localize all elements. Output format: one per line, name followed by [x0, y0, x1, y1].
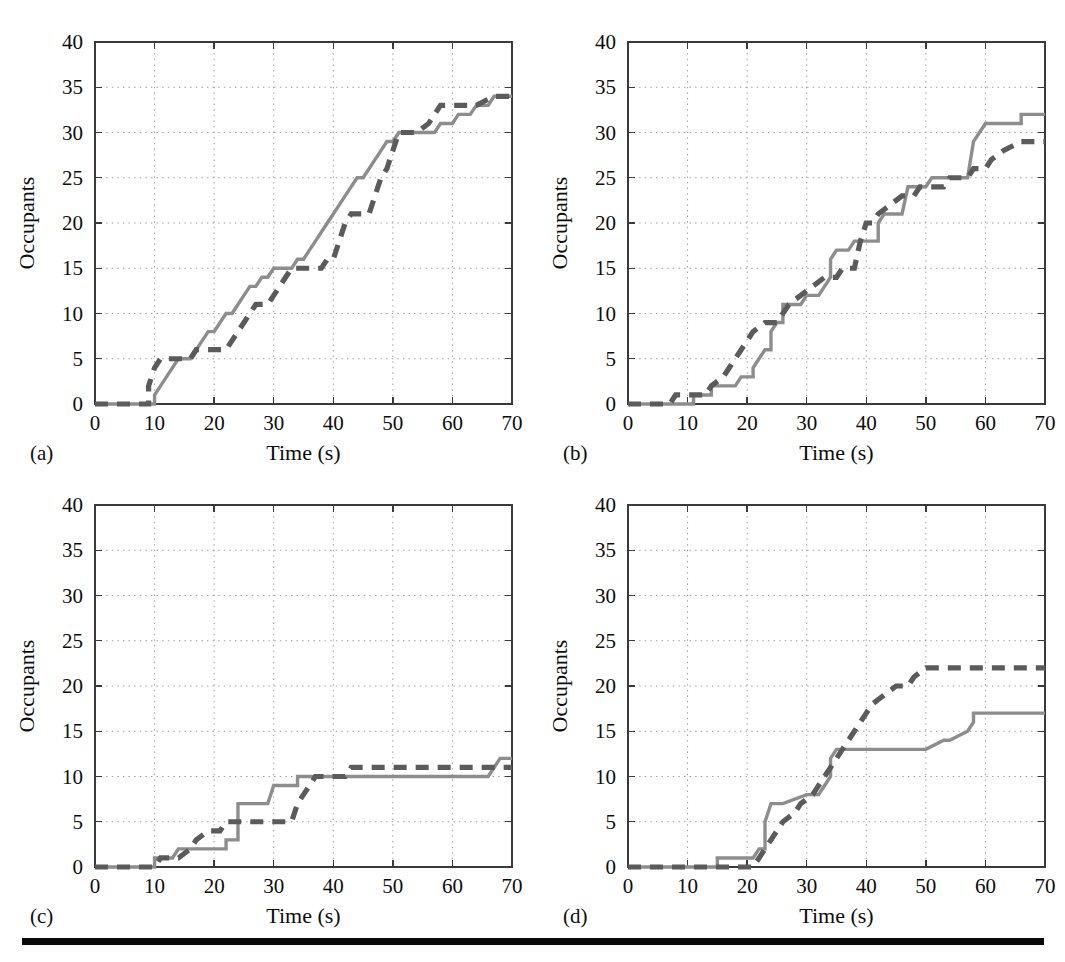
chart-svg-d: 0510152025303540010203040506070Occupants…: [533, 463, 1065, 928]
chart-panel-b: 0510152025303540010203040506070Occupants…: [533, 0, 1065, 465]
y-tick-label: 25: [595, 166, 616, 190]
series-dashed: [95, 96, 512, 404]
x-tick-label: 10: [677, 874, 698, 898]
y-tick-label: 20: [595, 674, 616, 698]
y-tick-label: 30: [62, 121, 83, 145]
x-tick-label: 20: [737, 411, 758, 435]
x-tick-label: 70: [502, 874, 523, 898]
y-tick-label: 25: [595, 629, 616, 653]
series-dashed: [95, 767, 512, 867]
series-solid: [95, 96, 512, 404]
y-tick-label: 15: [62, 719, 83, 743]
x-tick-label: 30: [796, 411, 817, 435]
x-tick-label: 30: [796, 874, 817, 898]
y-tick-label: 40: [62, 30, 83, 54]
y-tick-label: 10: [595, 302, 616, 326]
y-tick-label: 5: [73, 347, 84, 371]
y-tick-label: 15: [595, 256, 616, 280]
x-tick-label: 60: [442, 874, 463, 898]
panel-letter-b: (b): [563, 441, 588, 465]
x-tick-label: 20: [204, 411, 225, 435]
x-tick-label: 50: [915, 411, 936, 435]
series-dashed: [628, 668, 1045, 867]
x-axis-title: Time (s): [799, 903, 873, 928]
x-tick-label: 60: [442, 411, 463, 435]
y-tick-label: 5: [73, 810, 84, 834]
x-tick-label: 40: [323, 411, 344, 435]
x-tick-label: 10: [677, 411, 698, 435]
y-tick-label: 20: [595, 211, 616, 235]
y-tick-label: 15: [62, 256, 83, 280]
chart-panel-c: 0510152025303540010203040506070Occupants…: [0, 463, 532, 928]
x-tick-label: 50: [382, 411, 403, 435]
series-solid: [95, 758, 512, 867]
y-tick-label: 25: [62, 166, 83, 190]
y-tick-label: 30: [595, 121, 616, 145]
x-tick-label: 60: [975, 411, 996, 435]
y-axis-title: Occupants: [547, 177, 572, 270]
x-tick-label: 0: [623, 874, 634, 898]
bottom-horizontal-rule: [22, 938, 1044, 945]
series-solid: [628, 713, 1045, 867]
panel-letter-c: (c): [30, 904, 53, 928]
x-tick-label: 10: [144, 411, 165, 435]
x-tick-label: 0: [623, 411, 634, 435]
y-axis-title: Occupants: [14, 640, 39, 733]
x-tick-label: 30: [263, 411, 284, 435]
y-tick-label: 35: [62, 538, 83, 562]
x-tick-label: 10: [144, 874, 165, 898]
chart-panel-d: 0510152025303540010203040506070Occupants…: [533, 463, 1065, 928]
series-dashed: [628, 142, 1045, 404]
x-tick-label: 50: [382, 874, 403, 898]
x-axis-title: Time (s): [266, 440, 340, 465]
y-tick-label: 10: [62, 302, 83, 326]
x-tick-label: 70: [502, 411, 523, 435]
y-axis-title: Occupants: [547, 640, 572, 733]
x-tick-label: 70: [1035, 874, 1056, 898]
figure-panel-grid: 0510152025303540010203040506070Occupants…: [0, 0, 1065, 930]
y-tick-label: 5: [606, 810, 617, 834]
y-tick-label: 40: [595, 30, 616, 54]
chart-panel-a: 0510152025303540010203040506070Occupants…: [0, 0, 532, 465]
y-tick-label: 25: [62, 629, 83, 653]
x-tick-label: 0: [90, 411, 101, 435]
x-tick-label: 40: [856, 411, 877, 435]
x-tick-label: 30: [263, 874, 284, 898]
x-tick-label: 70: [1035, 411, 1056, 435]
y-tick-label: 35: [62, 75, 83, 99]
y-tick-label: 30: [595, 584, 616, 608]
y-tick-label: 20: [62, 211, 83, 235]
y-tick-label: 10: [595, 765, 616, 789]
y-tick-label: 20: [62, 674, 83, 698]
y-tick-label: 40: [595, 493, 616, 517]
panel-letter-d: (d): [563, 904, 588, 928]
y-tick-label: 35: [595, 538, 616, 562]
x-axis-title: Time (s): [266, 903, 340, 928]
chart-svg-a: 0510152025303540010203040506070Occupants…: [0, 0, 532, 465]
chart-svg-b: 0510152025303540010203040506070Occupants…: [533, 0, 1065, 465]
x-tick-label: 40: [856, 874, 877, 898]
y-tick-label: 10: [62, 765, 83, 789]
y-tick-label: 30: [62, 584, 83, 608]
y-tick-label: 0: [606, 392, 617, 416]
y-tick-label: 40: [62, 493, 83, 517]
x-axis-title: Time (s): [799, 440, 873, 465]
y-tick-label: 0: [73, 392, 84, 416]
x-tick-label: 60: [975, 874, 996, 898]
x-tick-label: 20: [204, 874, 225, 898]
y-axis-title: Occupants: [14, 177, 39, 270]
x-tick-label: 40: [323, 874, 344, 898]
x-tick-label: 20: [737, 874, 758, 898]
y-tick-label: 0: [606, 855, 617, 879]
x-tick-label: 0: [90, 874, 101, 898]
chart-svg-c: 0510152025303540010203040506070Occupants…: [0, 463, 532, 928]
y-tick-label: 35: [595, 75, 616, 99]
panel-letter-a: (a): [30, 441, 53, 465]
series-solid: [628, 114, 1045, 404]
x-tick-label: 50: [915, 874, 936, 898]
y-tick-label: 15: [595, 719, 616, 743]
y-tick-label: 5: [606, 347, 617, 371]
y-tick-label: 0: [73, 855, 84, 879]
